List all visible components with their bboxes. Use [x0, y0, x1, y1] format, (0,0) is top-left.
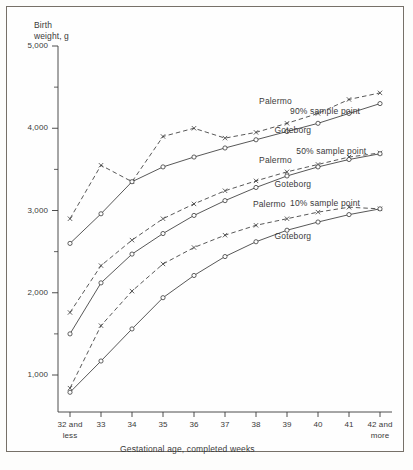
series-annotation: 90% sample point — [290, 106, 360, 116]
series-palermo-10 — [68, 205, 382, 390]
data-point-marker — [316, 165, 320, 169]
data-point-marker — [254, 179, 258, 183]
data-point-marker — [68, 386, 72, 390]
data-point-marker — [378, 207, 382, 211]
chart-plot-area — [0, 0, 413, 470]
data-point-marker — [223, 189, 227, 193]
data-point-marker — [99, 163, 103, 167]
series-annotation: 50% sample point — [296, 146, 366, 156]
series-palermo-50 — [68, 151, 382, 315]
y-tick-label: 3,000 — [18, 206, 48, 215]
axis-lines — [58, 46, 392, 412]
data-point-marker — [68, 332, 72, 336]
series-line — [70, 207, 380, 388]
data-point-marker — [254, 130, 258, 134]
data-point-marker — [285, 174, 289, 178]
data-point-marker — [192, 155, 196, 159]
series-annotation: Palermo — [259, 96, 292, 106]
data-point-marker — [161, 262, 165, 266]
data-point-marker — [99, 212, 103, 216]
data-point-marker — [130, 327, 134, 331]
x-axis-title: Gestational age, completed weeks — [120, 444, 255, 454]
data-point-marker — [285, 170, 289, 174]
data-point-marker — [223, 233, 227, 237]
data-point-marker — [254, 185, 258, 189]
data-point-marker — [68, 217, 72, 221]
y-tick-label: 4,000 — [18, 123, 48, 132]
data-point-marker — [223, 199, 227, 203]
series-line — [70, 153, 380, 313]
data-point-marker — [378, 101, 382, 105]
series-annotation: Goteborg — [275, 179, 312, 189]
data-point-marker — [347, 213, 351, 217]
data-point-marker — [254, 223, 258, 227]
data-point-marker — [130, 252, 134, 256]
data-point-marker — [254, 138, 258, 142]
series-line — [70, 209, 380, 392]
data-point-marker — [378, 152, 382, 156]
data-point-marker — [347, 157, 351, 161]
data-point-marker — [316, 121, 320, 125]
data-point-marker — [130, 180, 134, 184]
y-tick-label: 2,000 — [18, 288, 48, 297]
x-tick-label: 42 and — [360, 420, 400, 429]
data-point-marker — [254, 240, 258, 244]
data-point-marker — [99, 263, 103, 267]
data-point-marker — [161, 217, 165, 221]
data-point-marker — [192, 213, 196, 217]
data-point-marker — [223, 254, 227, 258]
y-tick-label: 1,000 — [18, 370, 48, 379]
series-goteborg-90 — [68, 101, 382, 245]
x-tick-label-second-line: more — [360, 431, 400, 440]
series-goteborg-50 — [68, 152, 382, 336]
data-point-marker — [99, 323, 103, 327]
data-point-marker — [68, 310, 72, 314]
data-point-marker — [130, 238, 134, 242]
y-tick-label: 5,000 — [18, 41, 48, 50]
x-axis-ticks — [70, 412, 380, 417]
series-line — [70, 154, 380, 334]
data-point-marker — [99, 281, 103, 285]
data-point-marker — [99, 359, 103, 363]
data-point-marker — [161, 231, 165, 235]
x-tick-label-second-line: less — [50, 431, 90, 440]
data-point-marker — [192, 202, 196, 206]
data-point-marker — [68, 241, 72, 245]
y-axis-ticks — [52, 46, 58, 375]
series-annotation: 10% sample point — [290, 198, 360, 208]
data-point-marker — [223, 146, 227, 150]
data-point-marker — [161, 296, 165, 300]
data-point-marker — [161, 165, 165, 169]
series-annotation: Palermo — [253, 199, 286, 209]
series-annotation: Goteborg — [275, 125, 312, 135]
data-point-marker — [130, 289, 134, 293]
data-point-marker — [316, 220, 320, 224]
data-point-marker — [192, 245, 196, 249]
series-annotation: Goteborg — [275, 231, 312, 241]
figure-container: Birthweight, g 1,0002,0003,0004,0005,000… — [0, 0, 413, 470]
series-annotation: Palermo — [259, 155, 292, 165]
data-point-marker — [68, 390, 72, 394]
data-point-marker — [192, 273, 196, 277]
